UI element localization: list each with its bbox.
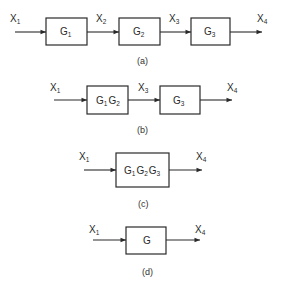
caption-c: (c) bbox=[138, 199, 149, 209]
signal-label-x4: X4 bbox=[196, 151, 207, 163]
signal-label-x1: X1 bbox=[50, 82, 61, 94]
signal-label-x1: X1 bbox=[10, 13, 21, 25]
signal-label-x4: X4 bbox=[227, 82, 238, 94]
signal-label-x4: X4 bbox=[257, 13, 268, 25]
block-diagram-canvas: X1 G1 X2 G2 X3 G3 X4 (a) X1 G1G2 X3 G3 X… bbox=[0, 0, 287, 287]
signal-label-x3: X3 bbox=[169, 13, 180, 25]
block-g1g2g3-label: G1G2G3 bbox=[124, 165, 161, 177]
caption-d: (d) bbox=[142, 267, 153, 277]
caption-a: (a) bbox=[137, 56, 148, 66]
signal-label-x3: X3 bbox=[138, 82, 149, 94]
signal-label-x1: X1 bbox=[79, 151, 90, 163]
diagram-a: X1 G1 X2 G2 X3 G3 X4 (a) bbox=[10, 13, 268, 66]
block-g-label: G bbox=[143, 235, 151, 246]
caption-b: (b) bbox=[137, 125, 148, 135]
diagram-d: X1 G X4 (d) bbox=[89, 224, 206, 277]
signal-label-x4: X4 bbox=[195, 224, 206, 236]
diagram-b: X1 G1G2 X3 G3 X4 (b) bbox=[50, 82, 238, 135]
signal-label-x2: X2 bbox=[96, 13, 107, 25]
diagram-c: X1 G1G2G3 X4 (c) bbox=[79, 151, 207, 209]
signal-label-x1: X1 bbox=[89, 224, 100, 236]
